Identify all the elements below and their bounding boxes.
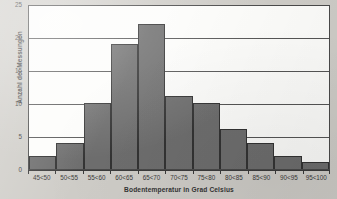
bar-cell: [165, 6, 192, 169]
y-axis-tick-label: 20: [8, 35, 22, 41]
x-axis-tick-label: 90<95: [275, 175, 302, 185]
bar-cell: [193, 6, 220, 169]
y-axis-tick-labels: 0510152025: [6, 0, 22, 199]
histogram-chart: Anzahl der Messungen 0510152025 45<5050<…: [0, 0, 337, 199]
x-axis-tick-label: 70<75: [165, 175, 192, 185]
bar[interactable]: [193, 103, 220, 169]
x-axis-tick-mark: [110, 170, 111, 174]
x-axis-tick-label: 60<65: [110, 175, 137, 185]
x-axis-tick-mark: [165, 170, 166, 174]
x-axis-tick-label: 80<85: [220, 175, 247, 185]
plot-area: [28, 5, 330, 170]
x-axis-tick-mark: [275, 170, 276, 174]
bar-cell: [138, 6, 165, 169]
bar-cell: [247, 6, 274, 169]
x-axis-tick-label: 95<100: [303, 175, 330, 185]
bar-cell: [220, 6, 247, 169]
x-axis-tick-label: 45<50: [28, 175, 55, 185]
bar-cell: [302, 6, 329, 169]
x-axis-tick-mark: [55, 170, 56, 174]
x-axis-tick-mark: [303, 170, 304, 174]
x-axis-tick-mark: [193, 170, 194, 174]
bar-cell: [56, 6, 83, 169]
x-axis-title: Bodentemperatur in Grad Celsius: [28, 186, 330, 193]
x-axis-tick-mark: [28, 170, 29, 174]
x-axis-tick-mark: [220, 170, 221, 174]
y-axis-tick-label: 15: [8, 68, 22, 74]
x-axis-tick-mark: [83, 170, 84, 174]
x-axis-tick-mark-end: [329, 170, 330, 174]
bar[interactable]: [56, 143, 83, 169]
bar-cell: [84, 6, 111, 169]
bars-layer: [29, 6, 329, 169]
bar[interactable]: [29, 156, 56, 169]
x-axis-tick-label: 85<90: [248, 175, 275, 185]
y-axis-tick-label: 25: [8, 2, 22, 8]
bar[interactable]: [111, 44, 138, 169]
bar[interactable]: [220, 129, 247, 169]
x-axis-tick-label: 55<60: [83, 175, 110, 185]
bar[interactable]: [84, 103, 111, 169]
y-axis-tick-label: 10: [8, 101, 22, 107]
bar[interactable]: [274, 156, 301, 169]
x-axis-tick-labels: 45<5050<5555<6060<6565<7070<7575<8080<85…: [28, 175, 330, 185]
bar[interactable]: [138, 24, 165, 169]
bar[interactable]: [302, 162, 329, 169]
bar-cell: [111, 6, 138, 169]
x-axis-tick-mark: [138, 170, 139, 174]
bar-cell: [274, 6, 301, 169]
y-axis-tick-label: 0: [8, 167, 22, 173]
x-axis-tick-label: 50<55: [55, 175, 82, 185]
x-axis-tick-mark: [248, 170, 249, 174]
x-axis-tick-label: 65<70: [138, 175, 165, 185]
bar[interactable]: [247, 143, 274, 169]
x-axis-tick-label: 75<80: [193, 175, 220, 185]
bar-cell: [29, 6, 56, 169]
y-axis-tick-label: 5: [8, 134, 22, 140]
bar[interactable]: [165, 96, 192, 169]
